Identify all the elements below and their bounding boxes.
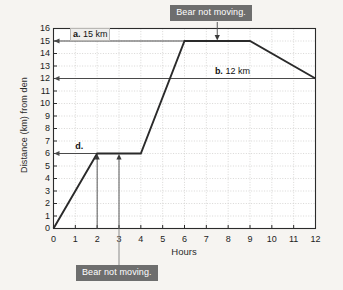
annotation-label-d: d. xyxy=(73,141,85,152)
callout-bear-not-moving-bottom: Bear not moving. xyxy=(76,265,158,281)
bear-distance-chart: Distance (km) from den Hours 01234567891… xyxy=(0,0,343,290)
plot-area xyxy=(0,0,343,290)
annotation-bold-prefix: a. xyxy=(73,29,81,39)
annotation-bold-prefix: d. xyxy=(75,141,83,151)
callout-bear-not-moving-top: Bear not moving. xyxy=(170,5,252,21)
annotation-label-a: a. 15 km xyxy=(70,28,111,41)
annotation-label-b: b. 12 km xyxy=(213,66,252,77)
annotation-bold-prefix: b. xyxy=(215,66,223,76)
